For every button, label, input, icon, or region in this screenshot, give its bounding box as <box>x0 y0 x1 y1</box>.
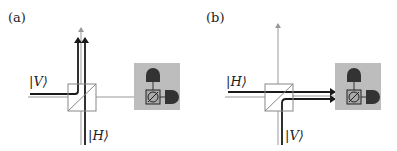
ket-top-a: |V⟩ <box>29 74 48 89</box>
ket-top-b: |H⟩ <box>226 74 247 89</box>
ket-bottom-b: |V⟩ <box>285 128 304 143</box>
ket-bottom-a: |H⟩ <box>88 128 109 143</box>
beam-splitter-diagonal <box>265 84 293 111</box>
panel-b: (b) |H⟩ |V⟩ <box>206 10 381 145</box>
detector-top-icon <box>347 68 361 82</box>
detector-right-icon <box>366 90 380 104</box>
detector-box-a <box>134 63 180 110</box>
panel-label-b: (b) <box>206 10 224 25</box>
detector-right-icon <box>165 90 179 104</box>
detector-top-icon <box>146 68 160 82</box>
diagram-canvas: (a) |V⟩ |H⟩ (b) <box>0 0 397 151</box>
detector-box-b <box>335 63 381 110</box>
beam-splitter-diagonal <box>68 84 96 111</box>
panel-label-a: (a) <box>8 10 26 25</box>
panel-a: (a) |V⟩ |H⟩ <box>8 10 180 145</box>
